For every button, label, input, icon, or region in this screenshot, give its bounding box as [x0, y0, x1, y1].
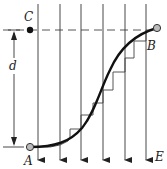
arrowhead-down-icon [11, 137, 17, 146]
label-e: E [154, 150, 164, 164]
point-b [153, 24, 160, 31]
label-c: C [24, 10, 33, 24]
label-a: A [23, 154, 33, 168]
trajectory-curve [30, 28, 157, 147]
label-d: d [9, 59, 17, 73]
point-c [27, 27, 33, 33]
point-a [26, 143, 33, 150]
field-lines [38, 4, 146, 160]
label-b: B [146, 39, 156, 53]
arrowhead-up-icon [11, 31, 17, 40]
diagram-canvas: C B A d E [0, 0, 167, 169]
staircase-path [30, 30, 146, 147]
